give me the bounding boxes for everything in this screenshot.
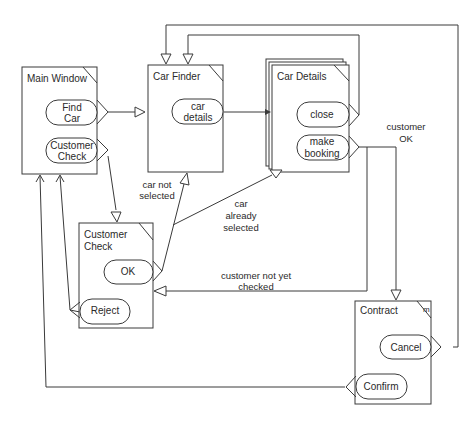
window-title-car-details: Car Details <box>277 71 326 82</box>
edge-label: customer <box>386 121 425 132</box>
button-label: booking <box>304 148 339 159</box>
edge-label: selected <box>223 222 258 233</box>
edge-label: customer not yet <box>221 270 292 281</box>
edge-label: selected <box>139 190 174 201</box>
arrowhead-open <box>270 170 282 178</box>
window-title-customer-check-line1: Customer <box>84 229 128 240</box>
button-label: Customer <box>50 140 94 151</box>
button-label: OK <box>121 266 136 277</box>
button-label: Cancel <box>390 342 421 353</box>
arrowhead-open <box>111 212 121 222</box>
button-label: car <box>191 101 206 112</box>
window-title-car-finder: Car Finder <box>153 71 201 82</box>
edge-make-booking-to-contract <box>359 147 396 290</box>
arrowhead-open <box>135 107 145 117</box>
button-label: Find <box>62 102 81 113</box>
button-label: details <box>184 112 213 123</box>
edge-label: car not <box>142 179 171 190</box>
navigation-diagram: Main Window Car Finder Car Details Custo… <box>0 0 461 424</box>
arrowhead-open <box>180 173 189 185</box>
edge-label: checked <box>238 281 273 292</box>
edge-label: car <box>234 198 247 209</box>
arrowhead-open <box>183 54 193 64</box>
button-customer-check[interactable]: Customer Check <box>46 138 108 163</box>
modal-marker: m <box>423 305 430 314</box>
arrowhead-open <box>161 54 171 64</box>
button-label: Car <box>64 113 81 124</box>
label-car-already-selected: car already selected <box>223 198 258 233</box>
edge-label: OK <box>399 133 413 144</box>
button-label: Reject <box>91 305 120 316</box>
window-title-contract: Contract <box>360 305 398 316</box>
label-customer-not-yet-checked: customer not yet checked <box>221 270 292 292</box>
button-label: make <box>310 136 335 147</box>
arrowhead-open <box>391 290 401 300</box>
window-title-main-window: Main Window <box>27 73 88 84</box>
button-find-car[interactable]: Find Car <box>46 100 108 125</box>
button-cancel[interactable]: Cancel <box>380 335 441 359</box>
label-car-not-selected: car not selected <box>139 179 174 201</box>
button-car-details[interactable]: car details <box>172 99 223 124</box>
button-label: close <box>310 109 334 120</box>
label-customer-ok: customer OK <box>386 121 425 144</box>
button-label: Confirm <box>363 381 398 392</box>
button-make-booking[interactable]: make booking <box>297 135 359 160</box>
arrowhead-open <box>154 286 166 296</box>
button-label: Check <box>58 151 87 162</box>
edge-reject-to-main-window <box>60 176 80 312</box>
button-close[interactable]: close <box>297 102 359 127</box>
edge-label: already <box>225 210 256 221</box>
window-title-customer-check-line2: Check <box>84 241 113 252</box>
edge-customer-check-to-window <box>108 156 116 210</box>
